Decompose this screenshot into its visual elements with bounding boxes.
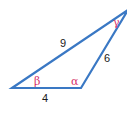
angle-label-alpha: α [71, 75, 79, 88]
side-label-4: 4 [42, 92, 48, 104]
triangle-diagram: 9 6 4 β α γ [0, 0, 127, 113]
angle-label-beta: β [34, 75, 40, 88]
triangle-shape [12, 10, 127, 88]
side-label-6: 6 [104, 52, 110, 64]
side-label-9: 9 [60, 37, 66, 49]
angle-label-gamma: γ [113, 16, 120, 29]
